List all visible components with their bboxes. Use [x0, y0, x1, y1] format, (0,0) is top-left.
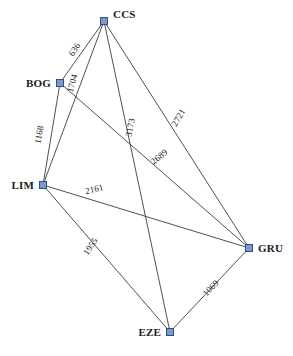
graph-node-ccs[interactable]: CCS — [101, 8, 136, 25]
edge-weight-label: 2721 — [169, 107, 187, 128]
node-label: BOG — [26, 77, 51, 89]
node-marker-icon[interactable] — [167, 329, 174, 336]
graph-edge — [43, 185, 249, 248]
edge-weight-label: 1955 — [81, 236, 100, 257]
nodes-layer: CCSBOGLIMGRUEZE — [11, 8, 283, 338]
graph-node-gru[interactable]: GRU — [246, 242, 284, 254]
edge-weight-label: 1168 — [33, 124, 46, 144]
edge-weight-label: 2689 — [149, 147, 170, 167]
edge-weight-label: 3173 — [123, 117, 136, 137]
graph-node-bog[interactable]: BOG — [26, 77, 64, 89]
node-marker-icon[interactable] — [40, 182, 47, 189]
graph-edge — [43, 83, 60, 185]
graph-edge — [43, 185, 170, 332]
graph-svg: 63617041168317327212689216119551069 CCSB… — [0, 0, 293, 356]
edge-weight-label: 1704 — [65, 73, 80, 94]
node-label: EZE — [138, 326, 161, 338]
graph-node-eze[interactable]: EZE — [138, 326, 173, 338]
node-label: CCS — [113, 8, 136, 20]
graph-node-lim[interactable]: LIM — [11, 179, 46, 191]
edge-weight-label: 2161 — [84, 182, 104, 196]
node-marker-icon[interactable] — [101, 18, 108, 25]
graph-edge — [104, 21, 170, 332]
node-marker-icon[interactable] — [246, 245, 253, 252]
node-label: GRU — [258, 242, 283, 254]
node-marker-icon[interactable] — [57, 80, 64, 87]
network-graph-canvas: 63617041168317327212689216119551069 CCSB… — [0, 0, 293, 356]
node-label: LIM — [11, 179, 34, 191]
